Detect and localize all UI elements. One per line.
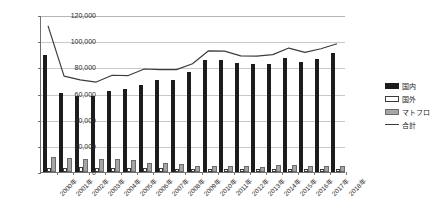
legend-item-label: マトフロ (402, 107, 430, 117)
legend-item-label: 国外 (402, 94, 416, 104)
legend-item[interactable]: マトフロ (385, 105, 439, 118)
gray-bar-swatch-icon (385, 109, 399, 115)
legend-item-label: 国内 (402, 81, 416, 91)
line-swatch-icon (385, 124, 399, 125)
white-bar-swatch-icon (385, 96, 399, 102)
black-bar-swatch-icon (385, 83, 399, 89)
chart-legend: 国内国外マトフロ合計 (385, 79, 439, 131)
legend-item-label: 合計 (402, 120, 416, 130)
total-line-series (0, 0, 439, 208)
legend-item[interactable]: 合計 (385, 118, 439, 131)
legend-item[interactable]: 国外 (385, 92, 439, 105)
legend-item[interactable]: 国内 (385, 79, 439, 92)
chart-container: 020,00040,00060,00080,000100,000120,000 … (0, 0, 439, 208)
total-line-path (48, 26, 337, 82)
